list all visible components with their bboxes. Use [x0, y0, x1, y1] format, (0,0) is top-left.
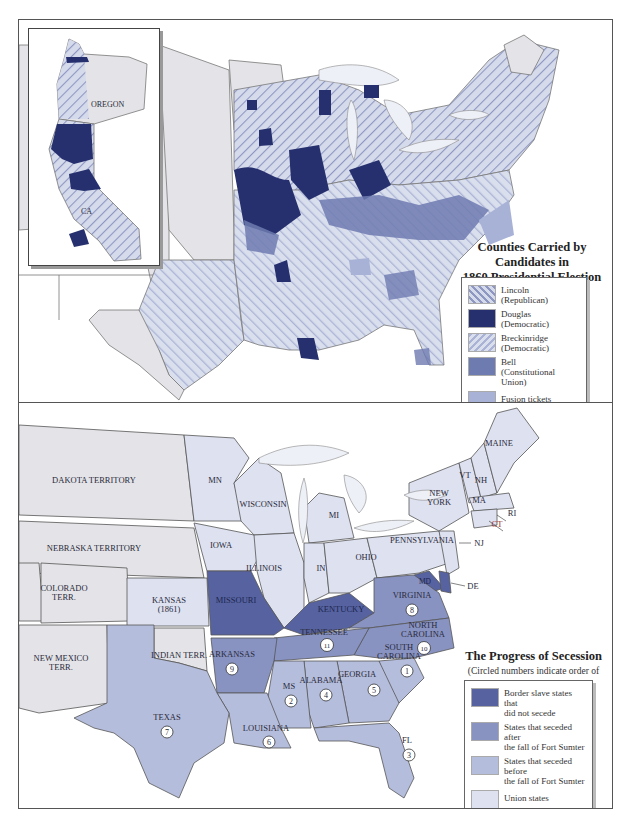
label-nebraska: NEBRASKA TERRITORY	[47, 543, 141, 553]
dakota-territory	[19, 425, 194, 521]
secession-order-6: 6	[263, 736, 275, 748]
election-legend: Lincoln(Republican) Douglas(Democratic) …	[461, 277, 587, 403]
label-alabama: ALABAMA	[300, 675, 344, 685]
secession-legend: Border slave states thatdid not secede S…	[464, 680, 593, 809]
lincoln-swatch	[468, 285, 496, 304]
label-mi: MI	[329, 510, 340, 520]
secession-title: The Progress of Secession	[465, 649, 602, 663]
after-sumter-swatch	[471, 722, 499, 741]
order-number: 3	[407, 751, 411, 760]
order-number: 5	[372, 686, 376, 695]
legend-label: Bell	[501, 357, 516, 367]
bell-swatch	[468, 357, 496, 376]
legend-label: Breckinridge	[501, 333, 548, 343]
label-kentucky: KENTUCKY	[318, 604, 365, 614]
label-ma: MA	[472, 495, 487, 505]
label-mn: MN	[208, 475, 222, 485]
order-number: 8	[410, 606, 414, 615]
label-oregon: OREGON	[91, 100, 125, 109]
election-1860-map-panel: OREGON CA Counties Carried by Candidates…	[18, 19, 613, 403]
secession-order-9: 9	[226, 663, 238, 675]
douglas-swatch	[468, 309, 496, 328]
label-ct: CT	[492, 519, 504, 529]
legend-label: the fall of Fort Sumter	[504, 742, 585, 752]
label-newmexico-2: TERR.	[49, 662, 73, 672]
legend-label: (Democratic)	[501, 343, 549, 353]
label-maine: MAINE	[485, 438, 513, 448]
secession-order-4: 4	[320, 689, 332, 701]
legend-item-after-sumter: States that seceded afterthe fall of For…	[471, 722, 586, 752]
pacific-inset-map: OREGON CA	[29, 29, 159, 265]
label-ohio: OHIO	[355, 552, 376, 562]
label-illinois: ILLINOIS	[246, 563, 282, 573]
label-de: DE	[467, 581, 478, 591]
label-georgia: GEORGIA	[338, 669, 377, 679]
label-pennsylvania: PENNSYLVANIA	[390, 535, 455, 545]
legend-item-bell: Bell(Constitutional Union)	[468, 357, 580, 387]
secession-order-1: 1	[401, 665, 413, 677]
secession-order-8: 8	[406, 604, 418, 616]
before-sumter-swatch	[471, 756, 499, 775]
legend-label: the fall of Fort Sumter	[504, 776, 585, 786]
label-wisconsin: WISCONSIN	[239, 499, 286, 509]
legend-label: Douglas	[501, 309, 531, 319]
label-louisiana: LOUISIANA	[243, 723, 290, 733]
label-ms: MS	[283, 681, 296, 691]
label-fl: FL	[402, 735, 412, 745]
label-nh: NH	[475, 475, 487, 485]
arkansas	[211, 638, 277, 693]
wisconsin	[234, 458, 294, 535]
order-number: 1	[405, 667, 409, 676]
legend-label: did not secede	[504, 708, 555, 718]
order-number: 10	[421, 645, 429, 653]
legend-item-before-sumter: States that seceded beforethe fall of Fo…	[471, 756, 586, 786]
label-texas: TEXAS	[153, 712, 181, 722]
label-nc-2: CAROLINA	[401, 629, 446, 639]
union-swatch	[471, 790, 499, 809]
secession-order-2: 2	[285, 695, 297, 707]
order-number: 4	[324, 691, 328, 700]
label-ri: RI	[508, 508, 517, 518]
label-sc-2: CAROLINA	[377, 651, 422, 661]
label-vt: VT	[459, 470, 471, 480]
order-number: 11	[324, 642, 331, 650]
order-number: 9	[230, 665, 234, 674]
election-title-line1: Counties Carried by Candidates in	[477, 240, 586, 269]
delaware	[439, 571, 451, 593]
breckinridge-swatch	[468, 333, 496, 352]
pacific-states-inset: OREGON CA	[28, 28, 160, 266]
label-indian: INDIAN TERR.	[151, 650, 207, 660]
label-iowa: IOWA	[210, 540, 233, 550]
label-virginia: VIRGINIA	[393, 590, 433, 600]
legend-label: Lincoln	[501, 285, 529, 295]
label-nj: NJ	[474, 538, 484, 548]
secession-order-5: 5	[368, 684, 380, 696]
legend-item-union: Union states	[471, 790, 586, 809]
order-number: 7	[165, 728, 169, 737]
label-dakota: DAKOTA TERRITORY	[52, 475, 136, 485]
legend-label: Border slave states that	[504, 688, 572, 708]
label-tennessee: TENNESSEE	[300, 627, 348, 637]
label-california: CA	[81, 207, 92, 216]
secession-order-7: 7	[161, 726, 173, 738]
secession-order-11: 11	[321, 639, 334, 652]
legend-item-lincoln: Lincoln(Republican)	[468, 285, 580, 305]
florida	[314, 723, 414, 798]
legend-item-douglas: Douglas(Democratic)	[468, 309, 580, 329]
legend-label: States that seceded before	[504, 756, 572, 776]
legend-label: (Democratic)	[501, 319, 549, 329]
legend-item-border-states: Border slave states thatdid not secede	[471, 688, 586, 718]
label-missouri: MISSOURI	[216, 595, 257, 605]
label-colorado-2: TERR.	[52, 592, 76, 602]
legend-label: Union states	[504, 793, 549, 803]
label-newyork-2: YORK	[427, 497, 452, 507]
secession-map-panel: DAKOTA TERRITORY NEBRASKA TERRITORY COLO…	[18, 402, 613, 809]
secession-order-3: 3	[403, 749, 415, 761]
legend-label: States that seceded after	[504, 722, 572, 742]
order-number: 6	[267, 738, 271, 747]
label-in: IN	[317, 563, 326, 573]
label-arkansas: ARKANSAS	[209, 649, 255, 659]
order-number: 2	[289, 697, 293, 706]
border-states-swatch	[471, 688, 499, 707]
label-md: MD	[419, 577, 432, 586]
